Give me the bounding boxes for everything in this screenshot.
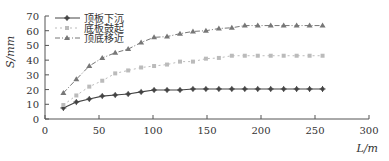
square-marker (87, 85, 91, 89)
x-tick-label: 100 (143, 125, 162, 136)
square-marker (282, 54, 286, 58)
y-tick-label: 70 (26, 11, 39, 22)
legend-label: 顶底移近 (84, 32, 124, 44)
square-marker (295, 54, 299, 58)
square-marker (65, 26, 69, 30)
x-tick-label: 150 (197, 125, 216, 136)
square-marker (100, 79, 104, 83)
x-tick-label: 50 (93, 125, 106, 136)
square-marker (243, 54, 247, 58)
x-tick-label: 250 (305, 125, 324, 136)
triangle-marker (112, 50, 118, 55)
triangle-marker (177, 31, 183, 36)
series-0 (60, 86, 325, 111)
square-marker (139, 66, 143, 70)
x-tick-label: 200 (251, 125, 270, 136)
square-marker (256, 54, 260, 58)
triangle-marker (125, 46, 131, 51)
y-tick-label: 50 (26, 40, 39, 51)
square-marker (230, 54, 234, 58)
x-axis-label: L/m (356, 142, 378, 155)
square-marker (178, 60, 182, 64)
y-axis-label: S/mm (4, 36, 17, 68)
y-tick-label: 30 (26, 70, 39, 81)
square-marker (191, 60, 195, 64)
square-marker (74, 93, 78, 97)
y-tick-label: 10 (26, 99, 39, 110)
triangle-marker (216, 26, 222, 31)
triangle-marker (138, 39, 144, 44)
square-marker (204, 57, 208, 61)
square-marker (217, 56, 221, 60)
square-marker (61, 103, 65, 107)
y-tick-label: 60 (26, 26, 39, 37)
legend: 顶板下沉底板鼓起顶底移近 (55, 12, 124, 44)
y-tick-label: 20 (26, 85, 39, 96)
square-marker (321, 54, 325, 58)
square-marker (165, 63, 169, 67)
x-tick-label: 0 (42, 125, 48, 136)
square-marker (113, 71, 117, 75)
square-marker (269, 54, 273, 58)
series-1 (61, 54, 324, 107)
triangle-marker (229, 25, 235, 30)
square-marker (152, 64, 156, 68)
y-tick-label: 0 (33, 114, 39, 125)
line-chart: 010203040506070050100150200250300 顶板下沉底板… (0, 0, 389, 161)
square-marker (308, 54, 312, 58)
x-tick-label: 300 (359, 125, 378, 136)
triangle-marker (320, 23, 326, 28)
triangle-marker (86, 63, 92, 68)
square-marker (126, 68, 130, 72)
axes: 010203040506070050100150200250300 (26, 11, 378, 136)
y-tick-label: 40 (26, 55, 39, 66)
